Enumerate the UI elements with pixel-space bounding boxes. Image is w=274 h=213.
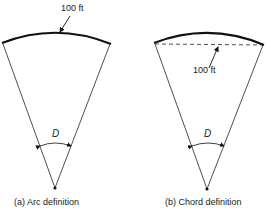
left-radius-line (3, 44, 55, 188)
chord-definition-figure (154, 33, 264, 191)
right-radius-line (55, 44, 110, 188)
arc-definition-figure (2, 16, 111, 190)
figure-caption: (b) Chord definition (165, 197, 242, 207)
angle-arc-arrow (192, 143, 224, 146)
angle-label: D (204, 128, 211, 139)
chord-length-label: 100 ft (193, 65, 216, 75)
center-point (205, 187, 208, 190)
angle-arc-arrow (40, 143, 71, 146)
arc-length-label: 100 ft (61, 3, 84, 13)
angle-label: D (52, 128, 59, 139)
arc-curve (154, 33, 264, 45)
diagram-canvas (0, 0, 274, 213)
arc-curve (2, 33, 111, 44)
figure-caption: (a) Arc definition (14, 197, 79, 207)
center-point (53, 186, 56, 189)
chord-dashed-line (155, 44, 263, 45)
arc-length-arrow (60, 16, 70, 32)
